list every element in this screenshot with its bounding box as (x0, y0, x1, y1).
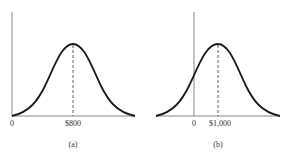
panel-b-zero-label: 0 (192, 119, 196, 128)
panel-a-bell-curve (12, 44, 135, 116)
panel-b-caption: (b) (213, 140, 222, 149)
panel-a-zero-label: 0 (10, 119, 14, 128)
panel-b (156, 12, 280, 116)
charts-canvas (0, 0, 291, 158)
panel-a-caption: (a) (69, 140, 78, 149)
panel-b-mean-label: $1,000 (209, 119, 231, 128)
panel-a-mean-label: $800 (65, 119, 81, 128)
panel-a (12, 12, 135, 116)
